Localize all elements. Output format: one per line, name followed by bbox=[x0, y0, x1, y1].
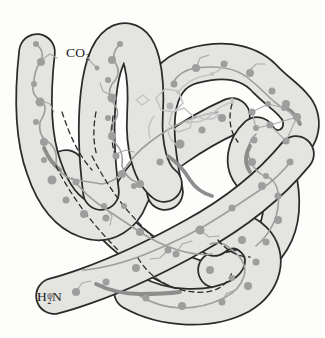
residue-dot bbox=[246, 69, 254, 77]
residue-dot bbox=[108, 56, 116, 64]
residue-dot bbox=[293, 113, 301, 121]
c-terminus-label: CO₂ bbox=[66, 45, 90, 60]
residue-dot bbox=[157, 159, 164, 166]
residue-dot bbox=[36, 98, 45, 107]
residue-dot bbox=[40, 138, 48, 146]
residue-dot bbox=[95, 66, 100, 71]
residue-dot bbox=[274, 216, 282, 224]
residue-dot bbox=[258, 182, 266, 190]
residue-dot bbox=[248, 158, 256, 166]
residue-dot bbox=[178, 302, 186, 310]
residue-dot bbox=[221, 61, 228, 68]
residue-dot bbox=[118, 170, 126, 178]
residue-dot bbox=[33, 41, 39, 47]
residue-dot bbox=[269, 88, 276, 95]
residue-dot bbox=[41, 157, 47, 163]
residue-dot bbox=[244, 282, 252, 290]
residue-dot bbox=[103, 215, 110, 222]
residue-dot bbox=[103, 279, 110, 286]
residue-dot bbox=[143, 295, 150, 302]
residue-dot bbox=[251, 137, 258, 144]
residue-dot bbox=[263, 239, 270, 246]
residue-dot bbox=[267, 122, 274, 129]
residue-dot bbox=[253, 259, 260, 266]
residue-dot bbox=[192, 64, 200, 72]
residue-dot bbox=[265, 101, 271, 107]
heme-center-dot bbox=[167, 103, 174, 110]
heme-node bbox=[210, 72, 214, 76]
residue-dot bbox=[229, 205, 236, 212]
residue-dot bbox=[281, 105, 287, 111]
residue-dot bbox=[121, 203, 127, 209]
residue-dot bbox=[218, 114, 226, 122]
residue-dot bbox=[108, 132, 116, 140]
residue-dot bbox=[206, 266, 214, 274]
residue-dot bbox=[275, 193, 282, 200]
residue-dot bbox=[238, 236, 246, 244]
residue-dot bbox=[105, 115, 111, 121]
residue-dot bbox=[176, 140, 185, 149]
residue-dot bbox=[219, 299, 226, 306]
residue-dot bbox=[113, 153, 120, 160]
residue-dot bbox=[131, 183, 137, 189]
residue-dot bbox=[73, 179, 80, 186]
residue-dot bbox=[63, 197, 70, 204]
residue-dot bbox=[48, 176, 57, 185]
residue-dot bbox=[171, 81, 178, 88]
residue-dot bbox=[105, 77, 111, 83]
residue-dot bbox=[136, 228, 144, 236]
residue-dot bbox=[199, 127, 206, 134]
residue-dot bbox=[132, 264, 140, 272]
residue-dot bbox=[287, 159, 294, 166]
residue-dot bbox=[37, 58, 45, 66]
residue-dot bbox=[117, 41, 123, 47]
protein-tertiary-structure-figure: CO₂ H₂N bbox=[0, 0, 325, 338]
heme-node bbox=[176, 90, 180, 94]
residue-dot bbox=[101, 203, 107, 209]
residue-dot bbox=[283, 138, 290, 145]
residue-dot bbox=[263, 173, 269, 179]
heme-node bbox=[230, 98, 234, 102]
heme-node bbox=[186, 120, 190, 124]
residue-dot bbox=[80, 210, 88, 218]
residue-dot bbox=[249, 109, 256, 116]
residue-dot bbox=[196, 226, 205, 235]
residue-dot bbox=[253, 125, 259, 131]
protein-diagram-canvas: CO₂ H₂N bbox=[0, 0, 325, 338]
residue-dot bbox=[136, 180, 144, 188]
residue-dot bbox=[31, 81, 37, 87]
residue-dot bbox=[165, 247, 172, 254]
residue-dot bbox=[33, 119, 39, 125]
n-terminus-label: H₂N bbox=[37, 289, 62, 304]
residue-dot bbox=[72, 288, 80, 296]
residue-dot bbox=[229, 275, 235, 281]
residue-dot bbox=[108, 94, 117, 103]
residue-dot bbox=[173, 251, 180, 258]
